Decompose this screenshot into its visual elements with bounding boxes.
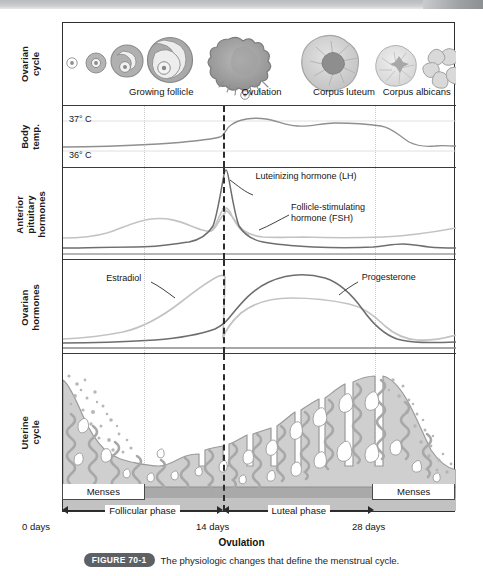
corpus-luteum-mature	[302, 35, 359, 91]
phase-follicular-label: Follicular phase	[105, 505, 180, 516]
ovulation-marker-line	[223, 354, 225, 511]
follicle-primordial	[67, 58, 77, 68]
phase-luteal: Luteal phase	[223, 502, 374, 518]
panel-ovarian-hormones: Estradiol Progesterone	[63, 260, 456, 354]
row-label-body-temp-text: Body temp.	[19, 124, 41, 150]
corpus-luteum-regressing	[376, 45, 417, 86]
day-ticks: 0 days 14 days 28 days	[0, 521, 483, 535]
annotation-fsh-line2: hormone (FSH)	[291, 213, 353, 224]
panel-body-temp: 37° C 36° C	[63, 106, 456, 168]
figure-caption-text: The physiologic changes that define the …	[161, 555, 400, 566]
corpus-albicans-large	[423, 49, 456, 89]
annotation-fsh-line1: Follicle-stimulating	[291, 202, 365, 213]
phase-follicular: Follicular phase	[62, 502, 223, 518]
phase-row: Follicular phase Luteal phase	[62, 502, 455, 518]
row-label-ovarian-cycle-text: Ovarian cycle	[19, 46, 41, 82]
row-label-ovarian-cycle: Ovarian cycle	[0, 22, 60, 106]
figure-number-badge: FIGURE 70-1	[84, 553, 155, 567]
follicle-graafian	[148, 38, 193, 83]
row-label-ovarian-hormones: Ovarian hormones	[0, 260, 60, 354]
day-tick-0: 0 days	[22, 521, 50, 532]
figure-caption: FIGURE 70-1 The physiologic changes that…	[0, 553, 483, 567]
ovulation-marker-line	[223, 168, 225, 259]
row-label-body-temp: Body temp.	[0, 106, 60, 168]
row-label-ovarian-hormones-text: Ovarian hormones	[19, 284, 41, 331]
stage-label-growing-follicle: Growing follicle	[129, 86, 193, 97]
body-temp-curve	[63, 106, 456, 168]
arrow-left-icon	[62, 506, 68, 514]
stage-label-corpus-luteum: Corpus luteum	[313, 86, 375, 97]
day-tick-28: 28 days	[352, 521, 385, 532]
arrow-right-icon	[368, 506, 374, 514]
menses-row: Menses Menses	[62, 484, 455, 500]
day-tick-14: 14 days	[196, 521, 229, 532]
menses-box-right: Menses	[372, 484, 455, 500]
row-label-pituitary-text: Anterior pituitary hormones	[14, 191, 47, 238]
row-label-uterine-cycle-text: Uterine cycle	[19, 416, 41, 449]
menses-box-left: Menses	[62, 484, 145, 500]
follicle-secondary	[111, 45, 143, 77]
ovulation-marker-line	[223, 260, 225, 353]
stage-label-ovulation: Ovulation	[241, 86, 281, 97]
plot-area: Growing follicle Ovulation Corpus luteum…	[62, 22, 455, 512]
annotation-lh: Luteinizing hormone (LH)	[256, 171, 357, 182]
annotation-progesterone: Progesterone	[362, 272, 416, 283]
row-label-uterine-cycle: Uterine cycle	[0, 354, 60, 512]
stage-label-corpus-albicans: Corpus albicans	[383, 86, 451, 97]
panel-pituitary-hormones: Luteinizing hormone (LH) Follicle-stimul…	[63, 168, 456, 260]
annotation-estradiol: Estradiol	[106, 273, 141, 284]
temp-tick-37: 37° C	[69, 114, 92, 124]
phase-luteal-label: Luteal phase	[268, 505, 330, 516]
row-label-pituitary: Anterior pituitary hormones	[0, 168, 60, 260]
ovulation-marker-line	[223, 106, 225, 167]
panel-ovarian-cycle: Growing follicle Ovulation Corpus luteum…	[63, 23, 456, 106]
ovulation-axis-title: Ovulation	[0, 537, 483, 548]
temp-tick-36: 36° C	[69, 150, 92, 160]
follicle-primary	[86, 53, 106, 73]
menstrual-cycle-figure: Ovarian cycle Body temp. Anterior pituit…	[0, 0, 483, 576]
